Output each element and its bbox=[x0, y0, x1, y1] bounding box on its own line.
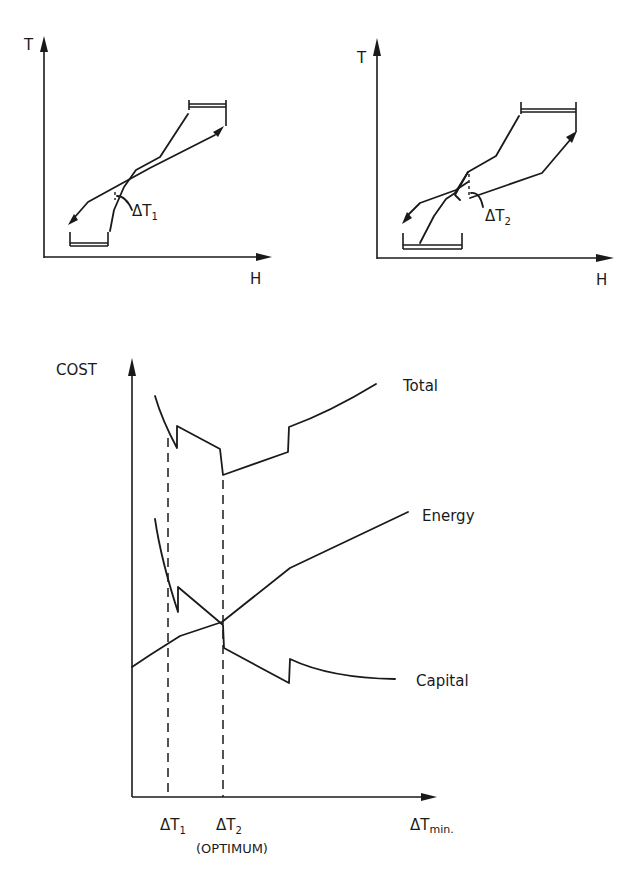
total-series-label: Total bbox=[402, 377, 438, 395]
composite-curves-right: T H ΔT2 bbox=[356, 38, 614, 289]
hot-utility-bar bbox=[521, 102, 576, 132]
cold-composite-curve-upper bbox=[470, 140, 570, 198]
x-axis-label: H bbox=[596, 271, 607, 289]
x-axis-label: H bbox=[250, 270, 261, 288]
optimum-label: (OPTIMUM) bbox=[196, 841, 268, 856]
energy-series-label: Energy bbox=[422, 507, 475, 525]
y-axis-arrow-icon bbox=[40, 36, 48, 52]
capital-series-label: Capital bbox=[416, 672, 469, 690]
composite-curves-left: T H ΔT1 bbox=[23, 36, 272, 288]
diagram-canvas: T H ΔT1 T H bbox=[0, 0, 642, 885]
delta-t2-axis-label: ΔT2 bbox=[216, 816, 242, 836]
delta-t2-label: ΔT2 bbox=[485, 207, 511, 227]
energy-cost-curve bbox=[132, 512, 408, 667]
cost-chart: COST Total Energy Capital ΔT1 ΔT2 (OPTIM… bbox=[56, 358, 475, 856]
y-axis-label: COST bbox=[56, 361, 98, 379]
total-cost-curve bbox=[155, 384, 376, 475]
hot-composite-curve-lower bbox=[420, 172, 468, 243]
y-axis-arrow-icon bbox=[128, 358, 136, 376]
capital-cost-curve bbox=[155, 519, 395, 683]
x-axis-arrow-icon bbox=[421, 793, 437, 801]
y-axis-label: T bbox=[23, 36, 34, 54]
y-axis-arrow-icon bbox=[373, 38, 381, 56]
cold-utility-bar bbox=[70, 232, 108, 246]
cold-utility-bar bbox=[403, 233, 462, 249]
delta-t1-axis-label: ΔT1 bbox=[160, 816, 186, 836]
x-axis-arrow-icon bbox=[596, 254, 614, 262]
cold-curve-arrow-icon bbox=[566, 131, 577, 143]
x-axis-label: ΔTmin. bbox=[410, 816, 454, 836]
delta-t1-label: ΔT1 bbox=[132, 202, 158, 222]
y-axis-label: T bbox=[356, 49, 367, 67]
hot-composite-curve-upper bbox=[455, 116, 519, 200]
x-axis-arrow-icon bbox=[256, 253, 272, 261]
hot-utility-bar bbox=[189, 100, 226, 126]
cold-curve-arrow-icon bbox=[402, 212, 412, 224]
